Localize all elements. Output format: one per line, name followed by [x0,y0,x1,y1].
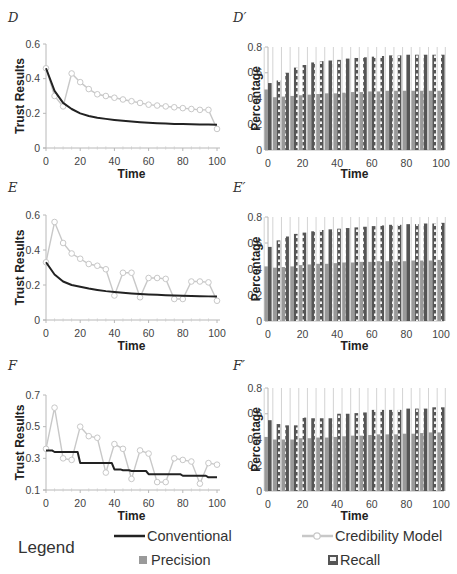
recall-bar [346,59,350,150]
precision-bar [403,91,407,150]
recall-bar [320,418,324,491]
x-tick-label: 60 [143,497,155,509]
y-tick-label: 0.5 [25,420,40,432]
precision-bar [394,91,398,150]
data-point [103,93,109,99]
data-point [77,424,83,430]
precision-bar [385,261,389,321]
data-point [52,219,58,225]
precision-bar [437,260,441,321]
precision-bar [282,440,286,492]
recall-bar [311,231,315,321]
x-tick-label: 20 [74,155,86,167]
recall-bar [415,224,419,321]
precision-bar [351,436,355,491]
precision-bar [299,95,303,150]
recall-bar [389,225,393,321]
recall-bar [355,413,359,491]
precision-bar [368,435,372,491]
precision-bar [325,264,329,321]
y-axis-title: Percentage [249,66,263,131]
precision-bar [334,93,338,150]
precision-bar [273,97,277,150]
data-point [197,279,203,285]
precision-bar [394,434,398,491]
x-tick-label: 40 [109,155,121,167]
precision-bar [351,263,355,322]
legend: Legend Conventional Credibility Model Pr… [18,528,442,568]
recall-bar [363,57,367,150]
recall-bar [406,224,410,321]
precision-bar [385,434,389,491]
y-tick-label: 0 [256,315,262,327]
precision-bar [403,434,407,491]
y-tick-label: 0.4 [25,72,40,84]
data-point [95,263,101,269]
recall-bar [424,224,428,322]
precision-bar [351,92,355,150]
y-tick-label: 0.6 [25,38,40,50]
precision-bar [308,438,312,491]
recall-bar [380,56,384,150]
data-point [146,102,152,108]
data-point [189,106,195,112]
data-point [180,296,186,302]
data-point [146,275,152,281]
precision-bar [316,94,320,150]
x-tick-label: 80 [177,327,189,339]
legend-title: Legend [18,538,75,557]
recall-bar [398,410,402,491]
recall-bar [303,65,307,150]
data-point [154,479,160,485]
chart-D: D00.20.40.6020406080100TimeTrust Results [7,10,226,181]
series-credibility-model [43,405,220,487]
x-axis-title: Time [341,339,369,353]
data-point [120,97,126,103]
data-point [95,435,101,441]
x-axis-title: Time [341,167,369,181]
data-point [214,126,220,132]
x-tick-label: 60 [143,155,155,167]
x-tick-label: 100 [208,155,226,167]
data-point [171,104,177,110]
y-tick-label: 0.8 [247,211,262,223]
data-point [129,476,135,482]
recall-bar [320,61,324,150]
precision-bar [290,266,294,321]
panel-label: E′ [232,180,245,195]
precision-bar [360,262,364,321]
chart-F: F0.10.30.50.7020406080100TimeTrust Resul… [7,358,226,523]
y-axis-title: Trust Results [13,229,27,305]
precision-bar [429,91,433,150]
y-tick-label: 0.1 [25,484,40,496]
x-tick-label: 20 [297,498,309,510]
data-point [120,446,126,452]
data-point [69,251,75,257]
precision-bar [316,264,320,321]
y-axis-title: Percentage [249,407,263,472]
data-point [189,279,195,285]
precision-bar [368,91,372,150]
x-tick-label: 80 [177,155,189,167]
x-tick-label: 20 [74,327,86,339]
precision-bar [377,434,381,491]
precision-bar [420,433,424,491]
data-point [206,280,212,286]
recall-bar [363,227,367,321]
recall-bar [441,223,445,321]
data-point [77,256,83,262]
precision-bar [264,89,268,150]
y-tick-label: 0.4 [25,244,40,256]
data-point [206,460,212,466]
data-point [197,481,203,487]
precision-bar [308,264,312,321]
recall-bar [380,225,384,321]
data-point [171,456,177,462]
panel-label: D [7,10,19,25]
precision-bar [411,91,415,150]
precision-bar [299,265,303,321]
x-axis: 020406080100 [43,489,226,510]
precision-bar [403,261,407,321]
data-point [86,433,92,439]
data-point [171,296,177,302]
